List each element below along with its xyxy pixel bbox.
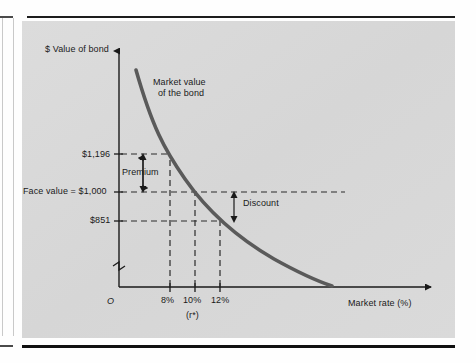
margin-rule-bottom [0,345,13,347]
scanned-page: $ Value of bond Market rate (%) Market v… [0,0,476,363]
bond-value-chart: $ Value of bond Market rate (%) Market v… [22,21,455,338]
margin-rule-top [0,16,13,18]
x-tick-label-8pct: 8% [161,295,174,306]
chart-canvas [22,21,455,338]
figure-rule-top [27,16,455,18]
figure-rule-bottom [22,345,455,348]
x-tick-sublabel-rstar: (r*) [186,310,199,321]
y-axis-title: $ Value of bond [45,44,109,55]
y-tick-label-851: $851 [90,215,110,226]
x-tick-label-12pct: 12% [211,295,229,306]
y-tick-label-face-value: Face value = $1,000 [23,186,107,197]
origin-label: O [107,296,114,307]
curve-annotation-line2: of the bond [158,88,204,99]
page-edge-line-inner [13,18,14,336]
premium-label: Premium [122,167,159,178]
x-axis-title: Market rate (%) [348,298,412,309]
curve-annotation-line1: Market value [153,77,206,88]
x-tick-label-10pct: 10% [183,295,201,306]
discount-label: Discount [243,198,279,209]
y-tick-label-1196: $1,196 [82,149,110,160]
page-edge-line-left [2,18,3,336]
